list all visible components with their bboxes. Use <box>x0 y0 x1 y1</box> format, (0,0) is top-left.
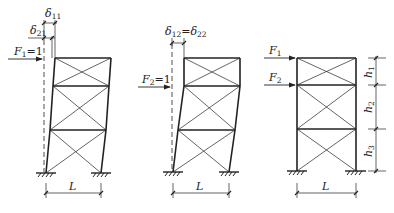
braced-frames-diagram: δ11 δ21 F1=1 L δ <box>0 0 394 213</box>
frame-2 <box>138 38 240 198</box>
force-f2-label: F2=1 <box>141 73 171 87</box>
fixed-supports <box>163 172 239 176</box>
force-f1-label: F1=1 <box>13 45 43 59</box>
delta-12-22-label: δ12=δ22 <box>165 25 207 39</box>
x-braces <box>297 58 356 171</box>
span-label: L <box>68 180 76 193</box>
left-column <box>46 58 55 173</box>
force-f1-label: F1 <box>268 44 281 58</box>
right-column <box>229 58 240 172</box>
left-column <box>173 58 184 172</box>
right-column <box>101 58 111 173</box>
span-label: L <box>321 180 329 193</box>
frame-1 <box>8 20 111 198</box>
x-braces <box>173 58 240 172</box>
h3-label: h3 <box>362 145 376 157</box>
fixed-supports <box>36 173 111 177</box>
delta-11-label: δ11 <box>45 7 61 21</box>
h1-label: h1 <box>362 66 376 78</box>
x-braces <box>46 58 111 173</box>
force-f2-label: F2 <box>268 71 282 85</box>
h2-label: h2 <box>362 101 376 113</box>
fixed-supports <box>287 171 366 175</box>
span-label: L <box>195 180 203 193</box>
